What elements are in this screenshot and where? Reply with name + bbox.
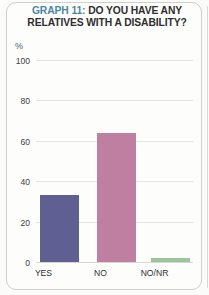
bar-yes[interactable] (40, 195, 79, 262)
y-axis-unit-label: % (15, 41, 23, 51)
chart-page: GRAPH 11: DO YOU HAVE ANY RELATIVES WITH… (0, 0, 209, 295)
plot-area (36, 60, 193, 262)
x-tick-label-yes: YES (22, 268, 65, 278)
x-tick-label-no-nr: NO/NR (133, 268, 176, 278)
x-tick-label-no: NO (79, 268, 122, 278)
y-tick-label-20: 20 (4, 218, 30, 228)
graph-number-label: GRAPH 11: (32, 5, 85, 16)
gridline-100 (36, 60, 193, 61)
chart-title-line-1: GRAPH 11: DO YOU HAVE ANY (14, 5, 200, 17)
bar-no[interactable] (97, 133, 136, 262)
y-tick-label-80: 80 (4, 96, 30, 106)
y-tick-label-100: 100 (4, 56, 30, 66)
y-tick-label-0: 0 (4, 258, 30, 268)
x-axis-line (36, 262, 193, 263)
page-title: GRAPH 11: DO YOU HAVE ANY RELATIVES WITH… (14, 5, 200, 29)
gridline-80 (36, 100, 193, 101)
chart-title-line-2: RELATIVES WITH A DISABILITY? (14, 17, 200, 29)
y-tick-label-60: 60 (4, 137, 30, 147)
page-gutter-rule (207, 6, 208, 288)
chart-title-rest: DO YOU HAVE ANY (85, 5, 182, 16)
y-tick-label-40: 40 (4, 177, 30, 187)
